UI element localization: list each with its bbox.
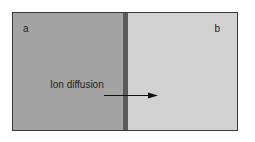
diffusion-diagram: a b Ion diffusion [12, 12, 238, 131]
compartment-b: b [128, 13, 237, 130]
diffusion-arrow-icon [104, 92, 158, 99]
compartment-a-label: a [23, 24, 29, 34]
compartment-b-label: b [214, 24, 220, 34]
compartment-a: a [13, 13, 123, 130]
ion-diffusion-label: Ion diffusion [50, 80, 104, 90]
